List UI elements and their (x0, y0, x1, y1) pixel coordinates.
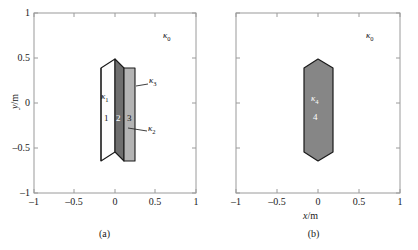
figure-container: 1 0.5 0 –0.5 –1 –1 –0.5 0 0.5 1 y/m κ0 κ… (0, 0, 418, 250)
label-kappa1: κ1 (101, 91, 109, 103)
xtick-label-1: 1 (182, 196, 210, 207)
xtick-label-1: 1 (386, 196, 414, 207)
xtick-label-0: 0 (304, 196, 332, 207)
xtick-label-0.5: 0.5 (343, 196, 375, 207)
kappa2-subscript: 2 (152, 128, 155, 135)
label-kappa0-a: κ0 (163, 30, 171, 42)
kappa0-subscript: 0 (167, 35, 170, 42)
label-kappa3: κ3 (149, 75, 157, 87)
panel-b-caption: (b) (209, 228, 418, 239)
ytick-label-1: 1 (6, 7, 30, 18)
region-2-shape (115, 59, 124, 161)
region-number-1: 1 (104, 113, 109, 123)
region-4-shape (304, 59, 333, 161)
panel-b: –1 –0.5 0 0.5 1 x/m κ0 κ4 4 (b) (209, 0, 418, 250)
xtick-label-0: 0 (101, 196, 129, 207)
label-kappa0-b: κ0 (366, 30, 374, 42)
region-number-3: 3 (127, 113, 132, 123)
y-axis-label-unit: /m (9, 94, 20, 105)
panel-a-plot (0, 0, 209, 250)
ytick-label-0.5: 0.5 (2, 52, 30, 63)
region-number-2: 2 (116, 113, 121, 123)
region-number-4: 4 (313, 112, 318, 122)
kappa3-subscript: 3 (153, 80, 156, 87)
kappa4-subscript: 4 (315, 98, 318, 105)
xtick-label-neg1: –1 (19, 196, 49, 207)
region-1-shape (101, 59, 115, 161)
y-axis-label: y/m (9, 82, 20, 122)
xtick-label-neg1: –1 (221, 196, 251, 207)
xtick-label-0.5: 0.5 (139, 196, 171, 207)
x-axis-label-unit: /m (307, 210, 318, 221)
x-axis-label: x/m (303, 210, 318, 221)
label-kappa4: κ4 (311, 93, 319, 105)
panel-a: 1 0.5 0 –0.5 –1 –1 –0.5 0 0.5 1 y/m κ0 κ… (0, 0, 209, 250)
label-kappa2: κ2 (148, 123, 156, 135)
kappa1-subscript: 1 (105, 96, 108, 103)
xtick-label-neg0.5: –0.5 (260, 196, 294, 207)
kappa0-subscript: 0 (370, 35, 373, 42)
xtick-label-neg0.5: –0.5 (57, 196, 91, 207)
y-axis-label-var: y (9, 105, 20, 109)
ytick-label-neg0.5: –0.5 (0, 142, 30, 153)
panel-a-caption: (a) (0, 228, 209, 239)
